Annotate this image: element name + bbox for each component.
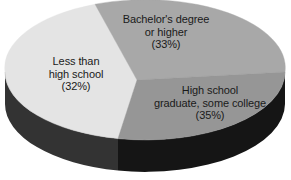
pie-chart-graphic <box>0 0 291 180</box>
pie-chart-figure: Bachelor's degree or higher (33%) Less t… <box>0 0 291 180</box>
